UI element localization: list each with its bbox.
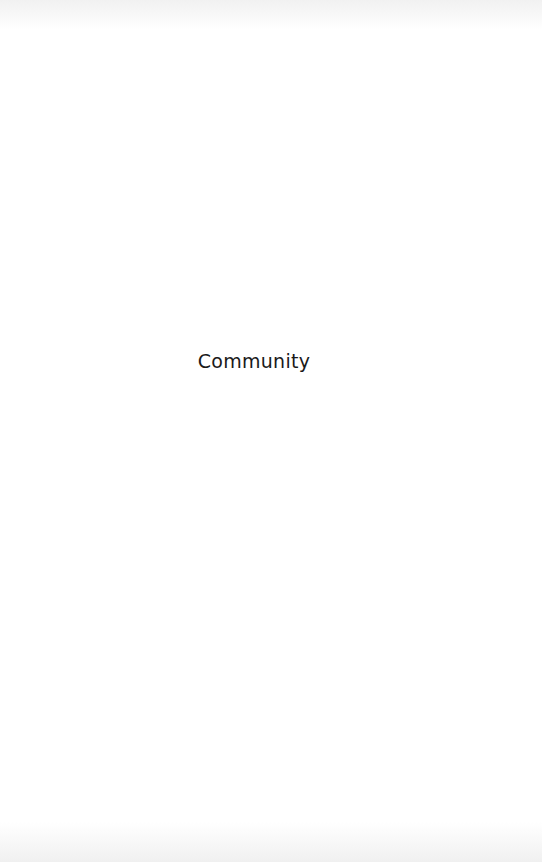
splash-screen: Community — [0, 0, 542, 862]
splash-title: Community — [0, 348, 508, 374]
bottom-edge-shade — [0, 822, 542, 862]
top-edge-shade — [0, 0, 542, 30]
